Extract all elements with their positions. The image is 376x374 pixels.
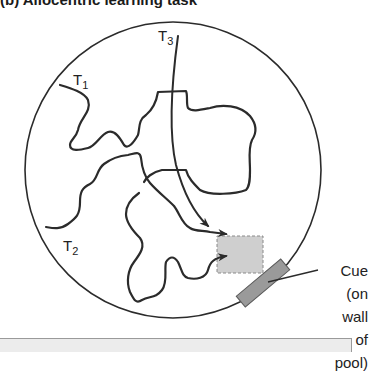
hidden-platform [217,236,263,273]
trial-1-path [60,85,256,194]
cue-label: Cue (on wall of pool) [318,259,368,374]
trial-3-path [172,36,208,226]
cue-label-line2: (on wall [318,282,368,328]
label-t3: T3 [158,28,173,47]
trial-2-path [46,153,226,234]
label-t2: T2 [63,238,78,257]
caption-box [0,338,352,352]
cue-label-line1: Cue [318,259,368,282]
label-t1: T1 [73,72,88,91]
